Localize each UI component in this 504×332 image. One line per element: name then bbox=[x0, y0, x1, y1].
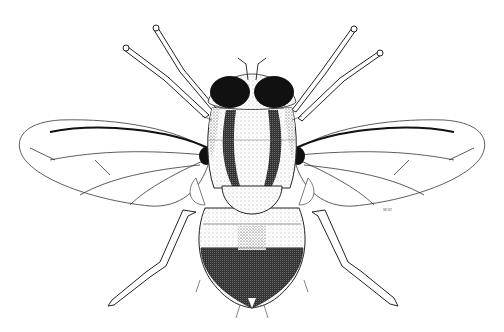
left-eye bbox=[210, 76, 250, 108]
thorax bbox=[208, 108, 297, 214]
artist-signature: MAH bbox=[383, 207, 392, 212]
right-wing bbox=[296, 120, 485, 206]
fly-drawing bbox=[0, 0, 504, 332]
right-eye bbox=[254, 76, 294, 108]
abdomen bbox=[199, 208, 305, 308]
head bbox=[208, 58, 296, 110]
left-wing bbox=[19, 120, 208, 206]
